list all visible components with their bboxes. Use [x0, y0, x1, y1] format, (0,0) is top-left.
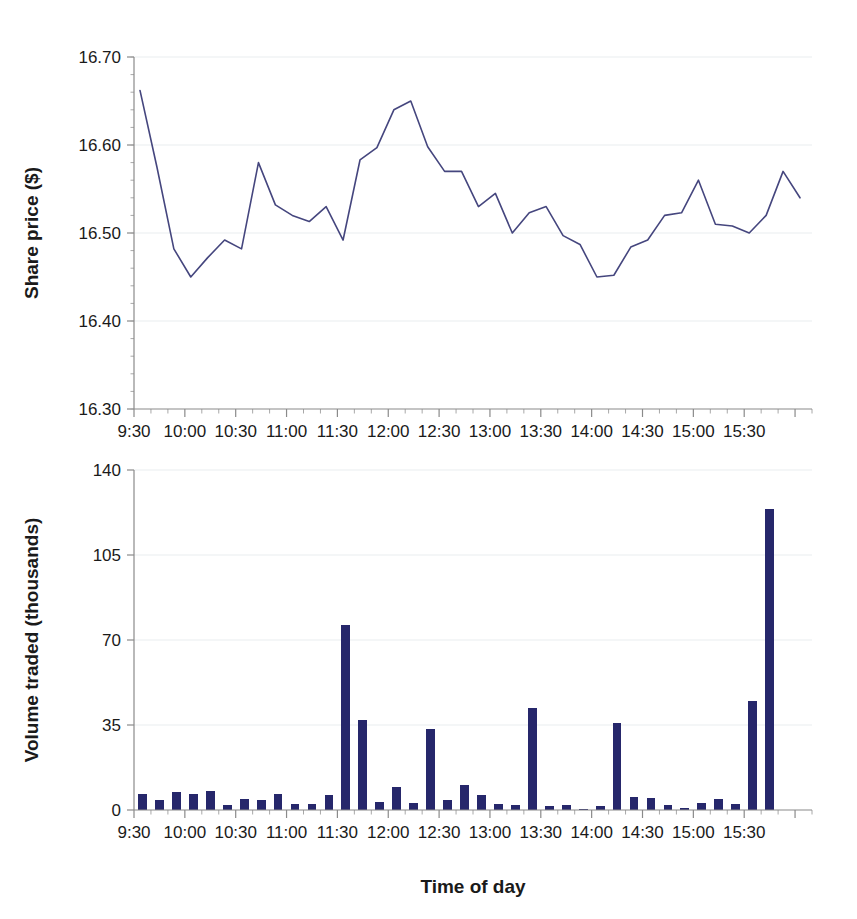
volume-x-tick-label: 11:30 [317, 823, 358, 842]
price-x-tick-label: 12:00 [367, 422, 410, 441]
price-x-tick-label: 14:30 [621, 422, 664, 441]
volume-y-tick-labels: 03570105140 [93, 461, 121, 820]
volume-bar [274, 794, 283, 810]
volume-bar [189, 794, 198, 810]
price-x-tick-label: 15:00 [672, 422, 715, 441]
figure-canvas: 16.3016.4016.5016.6016.70 9:3010:0010:30… [0, 0, 857, 919]
price-x-tick-labels: 9:3010:0010:3011:0011:3012:0012:3013:001… [117, 422, 765, 441]
volume-bar [494, 804, 503, 810]
price-x-tick-label: 11:00 [266, 422, 307, 441]
volume-bar [562, 805, 571, 810]
volume-y-tick-label: 140 [93, 461, 121, 480]
price-x-tick-label: 11:30 [317, 422, 358, 441]
volume-bar [206, 791, 215, 810]
volume-x-tick-label: 10:00 [164, 823, 207, 842]
price-panel: 16.3016.4016.5016.6016.70 9:3010:0010:30… [21, 48, 812, 441]
volume-y-axis-title: Volume traded (thousands) [21, 518, 42, 763]
volume-bar [731, 804, 740, 810]
volume-x-tick-label: 14:00 [570, 823, 613, 842]
volume-x-tick-label: 13:30 [520, 823, 563, 842]
volume-x-tick-label: 10:30 [214, 823, 257, 842]
price-x-tick-marks [134, 409, 812, 417]
volume-bar [765, 509, 774, 810]
price-x-tick-label: 10:00 [164, 422, 207, 441]
price-y-axis-title: Share price ($) [21, 167, 42, 299]
volume-bar [426, 729, 435, 810]
volume-y-tick-label: 70 [102, 631, 121, 650]
price-y-tick-label: 16.30 [78, 400, 121, 419]
volume-bar [460, 785, 469, 811]
price-x-tick-label: 14:00 [570, 422, 613, 441]
volume-gridlines [134, 470, 812, 725]
volume-bar [697, 803, 706, 810]
volume-x-tick-label: 14:30 [621, 823, 664, 842]
volume-x-tick-label: 15:30 [723, 823, 766, 842]
volume-bar [392, 787, 401, 810]
volume-bar [358, 720, 367, 810]
volume-x-tick-label: 13:00 [469, 823, 512, 842]
volume-bar [409, 803, 418, 810]
volume-bar [155, 800, 164, 810]
price-y-tick-label: 16.50 [78, 224, 121, 243]
volume-panel: 03570105140 9:3010:0010:3011:0011:3012:0… [21, 461, 812, 897]
volume-bar [647, 798, 656, 810]
volume-bar [172, 792, 181, 810]
volume-y-tick-label: 105 [93, 546, 121, 565]
volume-bar [375, 802, 384, 811]
price-x-tick-label: 13:30 [520, 422, 563, 441]
volume-x-tick-label: 11:00 [266, 823, 307, 842]
volume-bar [308, 804, 317, 810]
volume-bar [630, 797, 639, 810]
price-gridlines [134, 57, 812, 321]
price-x-tick-label: 15:30 [723, 422, 766, 441]
volume-bar [240, 799, 249, 810]
price-x-tick-label: 10:30 [214, 422, 257, 441]
volume-x-tick-labels: 9:3010:0010:3011:0011:3012:0012:3013:001… [117, 823, 765, 842]
price-y-tick-labels: 16.3016.4016.5016.6016.70 [78, 48, 121, 419]
volume-bar [664, 805, 673, 810]
price-y-tick-label: 16.60 [78, 136, 121, 155]
volume-bar [138, 794, 147, 810]
volume-bar [748, 701, 757, 810]
share-price-line [140, 90, 800, 277]
volume-bar [291, 804, 300, 810]
stock-figure: 16.3016.4016.5016.6016.70 9:3010:0010:30… [0, 0, 857, 919]
price-x-tick-label: 9:30 [117, 422, 150, 441]
volume-bars [138, 509, 774, 810]
volume-bar [613, 723, 622, 810]
volume-bar [528, 708, 537, 810]
price-x-tick-label: 13:00 [469, 422, 512, 441]
volume-x-tick-label: 12:00 [367, 823, 410, 842]
volume-bar [341, 625, 350, 810]
volume-bar [477, 795, 486, 810]
volume-x-tick-marks [134, 810, 812, 818]
volume-y-tick-marks [127, 470, 134, 810]
price-x-tick-label: 12:30 [418, 422, 461, 441]
volume-x-tick-label: 9:30 [117, 823, 150, 842]
volume-x-tick-label: 12:30 [418, 823, 461, 842]
volume-x-tick-label: 15:00 [672, 823, 715, 842]
volume-y-tick-label: 0 [112, 801, 121, 820]
price-y-tick-marks [127, 57, 134, 409]
x-axis-title: Time of day [420, 876, 526, 897]
volume-bar [443, 800, 452, 810]
price-y-tick-label: 16.70 [78, 48, 121, 67]
volume-bar [223, 805, 232, 810]
volume-bar [511, 805, 520, 810]
volume-bar [714, 799, 723, 810]
volume-y-tick-label: 35 [102, 716, 121, 735]
volume-bar [257, 800, 266, 810]
price-y-tick-label: 16.40 [78, 312, 121, 331]
volume-bar [325, 795, 334, 810]
